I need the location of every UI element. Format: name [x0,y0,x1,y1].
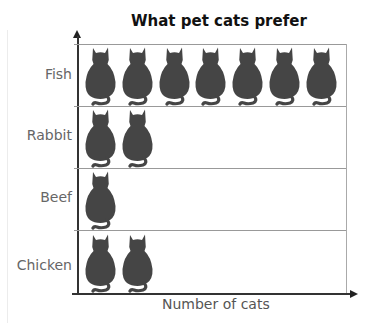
cat-row-fish [85,46,337,106]
row-label-fish: Fish [45,66,72,82]
cat-icon [232,46,263,106]
grid-line [74,106,347,107]
page-edge-line [7,30,8,323]
cat-icon [85,233,116,293]
cat-row-rabbit [85,108,153,168]
chart-title: What pet cats prefer [0,12,372,30]
cat-icon [85,108,116,168]
cat-icon [122,108,153,168]
cat-icon [122,46,153,106]
x-axis-label: Number of cats [162,296,270,312]
cat-icon [306,46,337,106]
cat-icon [159,46,190,106]
cat-icon [85,170,116,230]
row-label-rabbit: Rabbit [27,127,72,143]
cat-icon [195,46,226,106]
y-axis [77,36,79,294]
cat-icon [122,233,153,293]
cat-row-chicken [85,233,153,293]
row-label-chicken: Chicken [17,257,72,273]
grid-line [74,230,347,231]
grid-line [74,168,347,169]
plot-right-border [346,44,347,294]
cat-row-beef [85,170,116,230]
cat-icon [269,46,300,106]
grid-line [74,44,347,45]
cat-icon [85,46,116,106]
row-label-beef: Beef [40,189,72,205]
x-axis [72,293,352,295]
x-axis-arrow-icon [350,290,358,298]
